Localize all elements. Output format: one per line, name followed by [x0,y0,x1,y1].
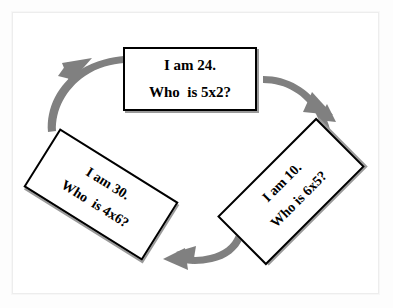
arrow-right-to-left-icon [163,235,243,270]
arrow-left-to-top-icon [48,56,124,132]
card-top-answer: I am 24. [164,58,216,74]
card-top-question: Who is 5x2? [149,85,231,101]
card-top[interactable]: I am 24. Who is 5x2? [123,47,257,111]
diagram-canvas: I am 24. Who is 5x2? I am 10. Who is 6x5… [0,0,393,308]
